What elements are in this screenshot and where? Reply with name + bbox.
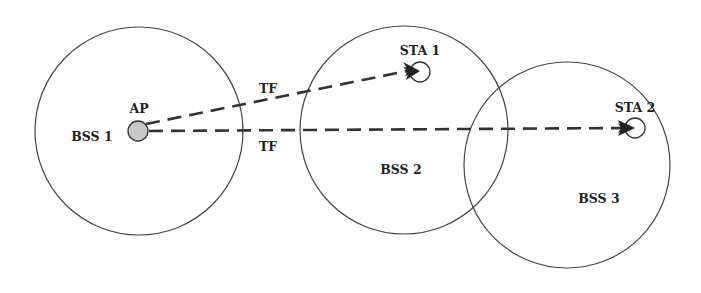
tf-label-upper: TF: [259, 81, 277, 96]
sta1-label: STA 1: [400, 43, 440, 58]
ap-node-icon: [128, 121, 148, 141]
tf-arrow-to-sta1: [146, 70, 412, 124]
bss-diagram: BSS 1 AP TF TF STA 1 STA 2 BSS 2 BSS 3: [0, 0, 701, 293]
ap-label: AP: [128, 101, 149, 116]
sta2-label: STA 2: [615, 100, 655, 115]
bss2-label: BSS 2: [380, 162, 421, 177]
bss3-label: BSS 3: [578, 191, 619, 206]
tf-arrow-to-sta2: [149, 128, 626, 131]
tf-label-lower: TF: [259, 139, 277, 154]
bss1-label: BSS 1: [71, 129, 112, 144]
bss3-coverage-circle: [464, 62, 670, 268]
